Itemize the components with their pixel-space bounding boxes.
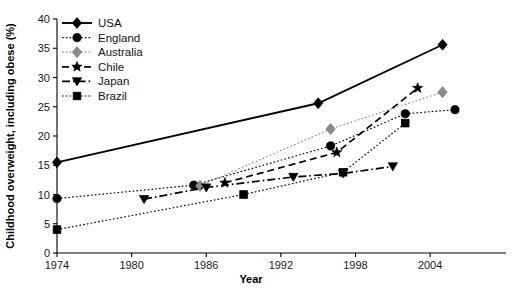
x-tick-label: 1992 <box>269 259 293 271</box>
y-tick-label: 35 <box>38 42 50 54</box>
y-tick-label: 25 <box>38 101 50 113</box>
legend-label: Brazil <box>98 90 127 102</box>
legend-label: Japan <box>98 75 129 87</box>
y-tick-label: 40 <box>38 13 50 25</box>
y-tick-label: 0 <box>44 247 50 259</box>
x-axis-title: Year <box>239 273 263 285</box>
legend-label: USA <box>98 17 122 29</box>
data-point-circle <box>451 106 459 114</box>
chart-container: 0510152025303540 19741980198619921998200… <box>0 0 512 292</box>
data-point-square <box>240 191 248 199</box>
y-tick-label: 15 <box>38 159 50 171</box>
y-tick-label: 10 <box>38 189 50 201</box>
legend-label: Chile <box>98 61 124 73</box>
y-tick-label: 20 <box>38 130 50 142</box>
x-tick-label: 1986 <box>194 259 218 271</box>
line-chart: 0510152025303540 19741980198619921998200… <box>0 0 512 292</box>
y-tick-label: 30 <box>38 72 50 84</box>
data-point-circle <box>327 142 335 150</box>
legend-label: Australia <box>98 46 143 58</box>
data-point-circle <box>73 34 81 42</box>
chart-background <box>0 0 512 292</box>
data-point-circle <box>401 110 409 118</box>
x-tick-label: 1974 <box>45 259 69 271</box>
x-tick-label: 1998 <box>343 259 367 271</box>
data-point-square <box>339 168 347 176</box>
data-point-square <box>401 119 409 127</box>
x-tick-label: 1980 <box>119 259 143 271</box>
data-point-square <box>53 226 61 234</box>
y-axis-title: Childhood overweight, including obese (%… <box>4 23 16 249</box>
legend-label: England <box>98 32 140 44</box>
data-point-square <box>73 92 81 100</box>
x-tick-label: 2004 <box>418 259 442 271</box>
y-tick-label: 5 <box>44 218 50 230</box>
data-point-circle <box>53 194 61 202</box>
